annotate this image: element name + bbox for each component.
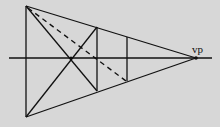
bottom-orthogonal — [26, 58, 196, 117]
dashed-diagonal — [28, 8, 126, 81]
diag-cross-point — [69, 56, 72, 59]
diagonal-top-to-bottom — [26, 6, 97, 91]
diagonal-bottom-to-top — [26, 27, 97, 117]
vp-label: vp — [192, 43, 204, 55]
perspective-diagram: vp — [0, 0, 220, 127]
diagram-svg: vp — [0, 0, 220, 127]
vp-point — [194, 56, 198, 60]
top-orthogonal — [26, 6, 196, 58]
